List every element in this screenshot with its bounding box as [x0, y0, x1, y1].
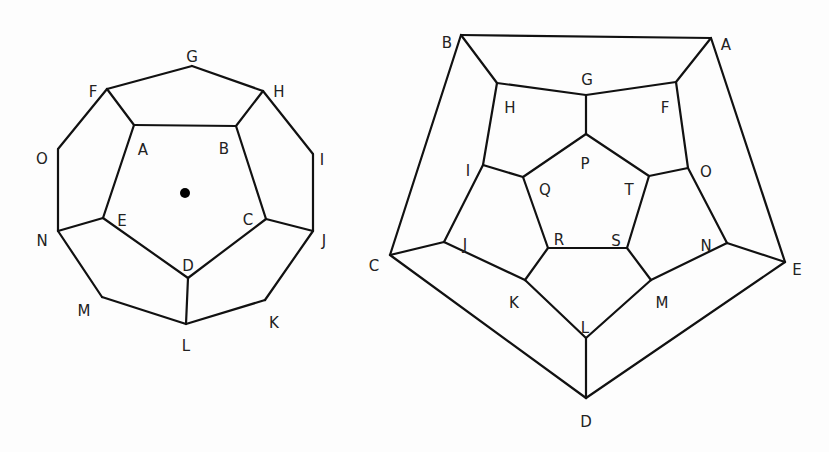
edge-C-J [390, 242, 444, 255]
edge-K-R [525, 248, 548, 280]
edge-H-G [497, 83, 586, 95]
dodecahedron-planar-view: GFHABOIECNJDMKL [36, 48, 326, 355]
edge-J-I [444, 165, 483, 242]
vertex-label-I: I [466, 162, 470, 180]
edge-M-L [102, 297, 186, 324]
vertex-label-H: H [273, 83, 284, 101]
vertex-label-N: N [700, 237, 711, 255]
vertex-label-K: K [509, 294, 520, 312]
edge-K-L [186, 300, 265, 324]
vertex-label-M: M [78, 302, 91, 320]
edge-M-S [627, 248, 651, 280]
vertex-label-D: D [580, 413, 592, 431]
edge-G-F [586, 82, 676, 95]
edge-L-K [525, 280, 586, 338]
vertex-label-G: G [186, 48, 198, 66]
edge-E-D [586, 262, 785, 398]
vertex-label-I: I [320, 151, 324, 169]
edge-A-E [711, 38, 785, 262]
edge-A-B [134, 125, 236, 126]
edge-F-G [107, 66, 192, 89]
edge-H-I [263, 91, 313, 154]
edge-I-H [483, 83, 497, 165]
vertex-label-L: L [581, 319, 590, 337]
vertex-label-T: T [623, 181, 634, 199]
edge-N-M [651, 243, 727, 280]
vertex-label-C: C [369, 257, 379, 275]
edge-B-A [461, 35, 711, 38]
vertex-label-E: E [792, 261, 801, 279]
edge-C-D [188, 219, 266, 278]
vertex-label-A: A [138, 141, 149, 159]
vertex-label-S: S [611, 232, 621, 250]
edge-E-N [727, 243, 785, 262]
edge-P-Q [523, 134, 586, 177]
vertex-label-O: O [700, 163, 712, 181]
vertex-label-N: N [36, 232, 47, 250]
edge-N-M [58, 231, 102, 297]
edge-E-N [58, 218, 103, 231]
vertex-label-H: H [504, 99, 515, 117]
edge-K-J [444, 242, 525, 280]
edge-F-O [58, 89, 107, 149]
edge-A-F [676, 38, 711, 82]
edge-I-Q [483, 165, 523, 177]
vertex-label-J: J [462, 236, 467, 254]
vertex-label-Q: Q [539, 181, 551, 199]
vertex-label-F: F [89, 83, 98, 101]
vertex-label-B: B [442, 34, 452, 52]
edge-H-B [236, 91, 263, 126]
edge-B-C [390, 35, 461, 255]
edge-G-H [192, 66, 263, 91]
edge-J-K [265, 231, 313, 300]
vertex-label-M: M [656, 294, 669, 312]
vertex-label-A: A [721, 36, 732, 54]
vertex-label-R: R [554, 231, 564, 249]
vertex-label-P: P [580, 155, 589, 173]
edge-B-H [461, 35, 497, 83]
edge-F-A [107, 89, 134, 125]
vertex-label-F: F [661, 99, 670, 117]
vertex-label-O: O [36, 150, 48, 168]
edge-M-L [586, 280, 651, 338]
edge-B-C [236, 126, 266, 219]
edge-O-T [649, 168, 688, 176]
vertex-label-L: L [182, 337, 191, 355]
dodecahedron-schlegel-diagram: BAGHFPIOQTJRSNCEKMLD [369, 34, 802, 431]
center-dot [180, 188, 190, 198]
vertex-label-J: J [321, 232, 326, 250]
vertex-label-E: E [117, 212, 126, 230]
vertex-label-G: G [581, 71, 593, 89]
edge-E-D [103, 218, 188, 278]
vertex-label-C: C [243, 211, 253, 229]
edge-C-D [390, 255, 586, 398]
dodecahedron-diagrams: GFHABOIECNJDMKL BAGHFPIOQTJRSNCEKMLD [0, 0, 829, 452]
vertex-label-K: K [269, 314, 280, 332]
edge-T-P [586, 134, 649, 176]
edge-A-E [103, 125, 134, 218]
vertex-label-D: D [182, 257, 194, 275]
edge-D-L [186, 278, 188, 324]
edge-F-O [676, 82, 688, 168]
vertex-label-B: B [219, 140, 229, 158]
edge-C-J [266, 219, 313, 231]
